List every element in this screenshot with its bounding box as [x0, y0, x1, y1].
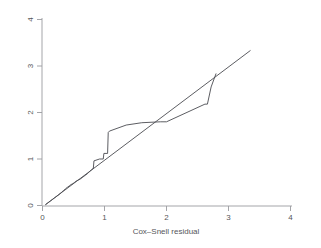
x-tick-label-0: 0	[40, 213, 45, 222]
figure-background	[0, 0, 321, 248]
x-axis-title: Cox–Snell residual	[133, 227, 200, 236]
y-tick-label-1: 1	[26, 156, 35, 161]
y-tick-label-0: 0	[26, 203, 35, 208]
x-tick-label-2: 2	[164, 213, 169, 222]
x-tick-label-4: 4	[288, 213, 293, 222]
cox-snell-residual-plot: 0 1 2 3 4 0 1 2 3 4 Cox–Snell residual	[0, 0, 321, 248]
x-tick-label-3: 3	[226, 213, 231, 222]
x-tick-label-1: 1	[102, 213, 107, 222]
y-tick-label-3: 3	[26, 63, 35, 68]
chart-screenshot: 0 1 2 3 4 0 1 2 3 4 Cox–Snell residual	[0, 0, 321, 248]
y-tick-label-4: 4	[26, 17, 35, 22]
y-tick-label-2: 2	[26, 110, 35, 115]
